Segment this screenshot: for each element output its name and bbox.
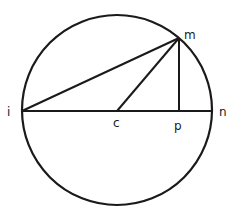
label-m: m <box>184 28 196 42</box>
label-n: n <box>219 105 227 119</box>
label-i: i <box>7 105 10 119</box>
radius-cm <box>117 38 179 111</box>
label-p: p <box>174 119 182 133</box>
geometry-diagram: i m c p n <box>0 0 234 213</box>
label-c: c <box>113 116 120 130</box>
